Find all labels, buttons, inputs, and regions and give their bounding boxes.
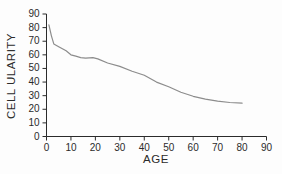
series-line-cellularity-vs-age [49, 25, 242, 103]
x-tick-label: 0 [36, 143, 58, 153]
y-tick-label: 20 [22, 104, 40, 114]
x-tick-label: 50 [158, 143, 180, 153]
x-tick-label: 60 [182, 143, 204, 153]
x-tick-label: 30 [109, 143, 131, 153]
y-tick-label: 50 [22, 63, 40, 73]
x-tick-label: 90 [256, 143, 278, 153]
x-tick-label: 10 [60, 143, 82, 153]
y-tick-label: 40 [22, 77, 40, 87]
y-tick-label: 70 [22, 36, 40, 46]
x-tick-label: 80 [231, 143, 253, 153]
y-axis-label: CELL ULARITY [5, 31, 17, 121]
y-tick-label: 80 [22, 23, 40, 33]
y-tick-label: 90 [22, 9, 40, 19]
cellularity-age-chart: CELL ULARITY AGE 01020304050607080900102… [0, 0, 282, 174]
x-tick-label: 40 [133, 143, 155, 153]
x-tick-label: 70 [207, 143, 229, 153]
x-tick-label: 20 [84, 143, 106, 153]
y-tick-label: 0 [22, 132, 40, 142]
x-axis-label: AGE [106, 153, 206, 165]
y-tick-label: 60 [22, 50, 40, 60]
y-tick-label: 30 [22, 91, 40, 101]
y-tick-label: 10 [22, 118, 40, 128]
